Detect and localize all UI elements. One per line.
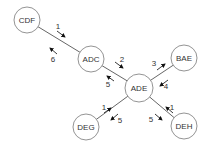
node-ade[interactable]: ADE [125,74,153,102]
arrow-label: 1 [102,103,107,112]
flow-arrow: 3 [152,59,165,71]
node-label: ADC [83,55,100,64]
node-adc[interactable]: ADC [78,46,104,72]
node-label: DEH [176,122,193,131]
node-bae[interactable]: BAE [171,45,197,71]
flow-arrow: 5 [111,114,123,125]
arrow-label: 1 [56,22,61,31]
flow-arrow: 1 [102,103,111,114]
arrow-label: 6 [51,55,56,64]
node-label: DEG [77,123,94,132]
arrow-label: 4 [164,82,169,91]
flow-arrow: 5 [106,76,114,89]
node-deg[interactable]: DEG [73,114,99,140]
network-diagram: 1625341515 CDFADCADEBAEDEGDEH [0,0,209,145]
nodes-layer: CDFADCADEBAEDEGDEH [14,7,197,140]
arrow-icon [50,48,57,54]
flow-arrow: 1 [56,22,65,38]
flow-arrow: 4 [160,80,169,91]
node-label: ADE [131,84,147,93]
node-label: BAE [176,54,192,63]
node-deh[interactable]: DEH [171,113,197,139]
flow-arrow: 6 [50,48,57,64]
arrow-label: 1 [170,103,175,112]
arrow-icon [57,31,65,37]
arrow-label: 3 [152,59,157,68]
node-cdf[interactable]: CDF [14,7,40,33]
arrow-label: 5 [106,80,111,89]
arrow-label: 5 [149,115,154,124]
arrow-icon [155,114,162,120]
flow-arrow: 5 [149,114,162,124]
arrow-icon [157,64,165,70]
arrow-label: 5 [118,116,123,125]
flow-arrow: 2 [115,55,125,69]
arrow-label: 2 [120,55,125,64]
arrows-layer: 1625341515 [50,22,175,125]
node-label: CDF [19,16,36,25]
